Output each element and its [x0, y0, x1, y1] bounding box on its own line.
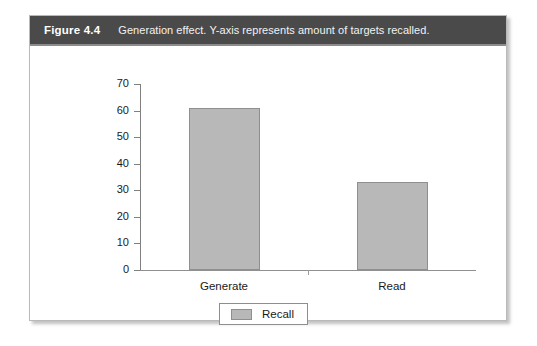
legend-swatch-recall	[231, 309, 252, 320]
figure-caption-bar: Figure 4.4 Generation effect. Y-axis rep…	[30, 16, 506, 46]
figure-caption-text: Generation effect. Y-axis represents amo…	[118, 24, 429, 36]
y-tick-20: 20	[134, 217, 140, 218]
chart-legend: Recall	[219, 303, 308, 325]
y-tick-60: 60	[134, 111, 140, 112]
y-tick-label-40: 40	[117, 157, 129, 170]
y-tick-label-0: 0	[123, 263, 129, 276]
y-tick-50: 50	[134, 137, 140, 138]
y-tick-10: 10	[134, 243, 140, 244]
bar-generate	[189, 108, 260, 270]
y-tick-30: 30	[134, 190, 140, 191]
figure-panel: Figure 4.4 Generation effect. Y-axis rep…	[29, 15, 507, 321]
y-tick-label-30: 30	[117, 183, 129, 196]
y-tick-label-50: 50	[117, 130, 129, 143]
y-tick-label-60: 60	[117, 104, 129, 117]
chart-plot-area: 010203040506070 GenerateRead Recall	[30, 48, 508, 320]
figure-number-label: Figure 4.4	[44, 24, 100, 36]
y-tick-label-70: 70	[117, 77, 129, 90]
x-label-read: Read	[378, 280, 406, 292]
y-tick-0: 0	[134, 270, 140, 271]
y-axis-line	[140, 84, 141, 270]
y-tick-label-20: 20	[117, 210, 129, 223]
x-tick-divider-0	[308, 270, 309, 275]
y-tick-40: 40	[134, 164, 140, 165]
legend-label-recall: Recall	[262, 308, 294, 320]
x-label-generate: Generate	[200, 280, 248, 292]
y-tick-70: 70	[134, 84, 140, 85]
y-tick-label-10: 10	[117, 236, 129, 249]
bar-read	[357, 182, 428, 270]
